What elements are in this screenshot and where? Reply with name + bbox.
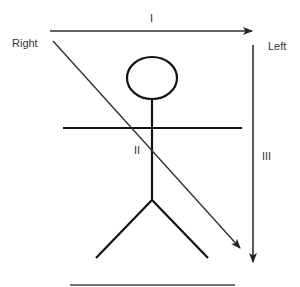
arrow-iii-label: III (262, 150, 271, 162)
left-label: Left (268, 40, 286, 52)
arrow-i: I (50, 12, 252, 31)
arrow-iii: III (253, 45, 271, 262)
arrow-ii-line (53, 41, 240, 248)
stick-figure (63, 57, 242, 258)
orientation-diagram: I Right Left II III (0, 0, 300, 287)
figure-left-leg (96, 200, 152, 258)
figure-right-leg (152, 200, 208, 258)
figure-head (127, 57, 177, 99)
right-label: Right (12, 37, 38, 49)
arrow-ii: II (53, 41, 240, 248)
arrow-ii-label: II (134, 144, 140, 156)
arrow-i-label: I (150, 12, 153, 24)
